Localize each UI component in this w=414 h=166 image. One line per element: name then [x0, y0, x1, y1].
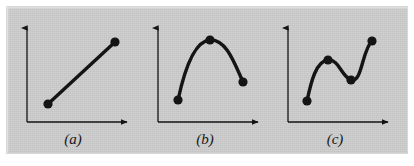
panel-b-data-point: [205, 35, 214, 44]
panel-a-data-point: [110, 37, 119, 46]
panel-c-data-point: [323, 55, 332, 64]
figure-root: (a) (b) (c): [0, 0, 414, 166]
panel-a-curve: [48, 42, 115, 104]
panel-c-curve: [307, 41, 372, 101]
panel-b-data-point: [173, 95, 182, 104]
panel-b-curve: [178, 40, 243, 100]
panel-c-caption: (c): [315, 132, 355, 147]
panel-a-caption: (a): [53, 132, 93, 147]
panel-b-data-point: [238, 77, 247, 86]
panel-a: [27, 28, 127, 122]
panel-c-data-point: [346, 75, 355, 84]
panel-c-data-point: [302, 96, 311, 105]
panel-a-data-point: [43, 99, 52, 108]
panel-c: [288, 28, 388, 122]
panel-b-caption: (b): [185, 132, 225, 147]
panel-c-data-point: [367, 36, 376, 45]
panel-b: [158, 28, 258, 122]
